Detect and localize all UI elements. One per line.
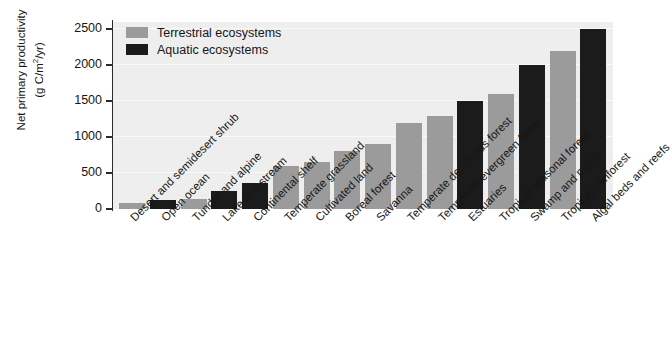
y-axis-tick-label: 1000 xyxy=(44,129,102,143)
y-axis-tick-label: 0 xyxy=(44,201,102,215)
y-axis-tick xyxy=(106,64,112,65)
y-axis-unit-post: /yr) xyxy=(32,42,44,59)
y-axis-tick xyxy=(106,172,112,173)
y-axis-tick-label: 1500 xyxy=(44,93,102,107)
legend-label-terrestrial: Terrestrial ecosystems xyxy=(157,26,281,40)
y-axis-unit-exponent: 2 xyxy=(31,59,40,63)
y-axis-tick xyxy=(106,100,112,101)
legend-swatch-terrestrial xyxy=(126,27,148,38)
legend-item-aquatic[interactable]: Aquatic ecosystems xyxy=(126,41,281,58)
y-axis-tick-label: 2500 xyxy=(44,21,102,35)
chart-legend: Terrestrial ecosystemsAquatic ecosystems xyxy=(126,24,281,58)
y-axis-line xyxy=(112,20,113,211)
y-axis-tick-label: 500 xyxy=(44,165,102,179)
legend-item-terrestrial[interactable]: Terrestrial ecosystems xyxy=(126,24,281,41)
legend-swatch-aquatic xyxy=(126,44,148,55)
y-axis-tick xyxy=(106,208,112,209)
legend-label-aquatic: Aquatic ecosystems xyxy=(157,43,268,57)
y-axis-tick xyxy=(106,28,112,29)
y-axis-tick xyxy=(106,136,112,137)
y-axis-tick-label: 2000 xyxy=(44,57,102,71)
y-axis-unit-pre: (g C/m xyxy=(32,63,44,98)
y-axis-title-line1: Net primary productivity xyxy=(15,10,27,131)
